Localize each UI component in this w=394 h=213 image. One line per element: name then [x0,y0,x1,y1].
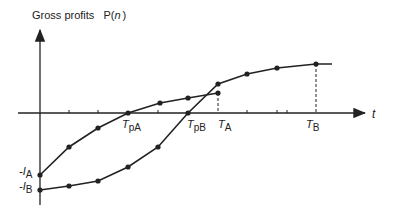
label-ib: -IB [19,180,33,195]
label-ta: TA [218,118,232,133]
series-a-line [40,93,218,175]
profit-diagram: Gross profits P(n) t TpA TpB TA TB -IA -… [0,0,394,213]
label-tb: TB [306,118,320,133]
label-tpa: TpA [122,118,141,133]
x-axis-label: t [372,107,376,121]
label-tpb: TpB [187,118,206,133]
y-axis-title: Gross profits P(n) [32,9,126,21]
series-a-points [37,90,220,177]
label-ia: -IA [19,165,33,180]
series-b-points [37,61,318,192]
series-b-line [40,64,332,190]
